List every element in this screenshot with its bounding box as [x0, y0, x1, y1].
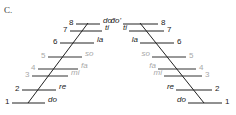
diagonal-line [28, 23, 88, 103]
degree-number: 5 [41, 51, 46, 60]
degree-number: 4 [31, 63, 36, 72]
degree-number: 6 [177, 37, 182, 46]
solfege-syllable: mi [154, 68, 163, 77]
solfege-syllable: la [132, 35, 139, 44]
degree-number: 8 [69, 18, 74, 27]
degree-number: 7 [167, 25, 172, 34]
solfege-syllable: la [97, 35, 104, 44]
solfege-syllable: fa [81, 61, 88, 70]
solfege-ladder-diagram: C. 8do'7ti6la5so4fa3mi2re1do 8do'7ti6la5… [0, 0, 236, 115]
degree-number: 4 [199, 63, 204, 72]
solfege-syllable: so [85, 49, 94, 58]
solfege-syllable: ti [123, 23, 127, 32]
degree-number: 6 [53, 37, 58, 46]
degree-number: 5 [189, 51, 194, 60]
solfege-syllable: ti [105, 23, 109, 32]
degree-number: 3 [205, 70, 210, 79]
degree-number: 1 [5, 97, 10, 106]
figure-caption: C. [4, 5, 12, 15]
degree-number: 2 [215, 84, 220, 93]
solfege-syllable: re [59, 82, 67, 91]
solfege-syllable: do' [111, 16, 122, 25]
solfege-syllable: mi [71, 68, 80, 77]
degree-number: 3 [25, 70, 30, 79]
degree-number: 2 [15, 84, 20, 93]
solfege-syllable: re [167, 82, 175, 91]
left-ladder: 8do'7ti6la5so4fa3mi2re1do [5, 16, 114, 106]
solfege-syllable: do [177, 95, 186, 104]
right-ladder: 8do'7ti6la5so4fa3mi2re1do [111, 16, 230, 106]
degree-number: 7 [63, 25, 68, 34]
solfege-syllable: do [48, 95, 57, 104]
degree-number: 8 [161, 18, 166, 27]
solfege-syllable: so [142, 49, 151, 58]
degree-number: 1 [225, 97, 230, 106]
